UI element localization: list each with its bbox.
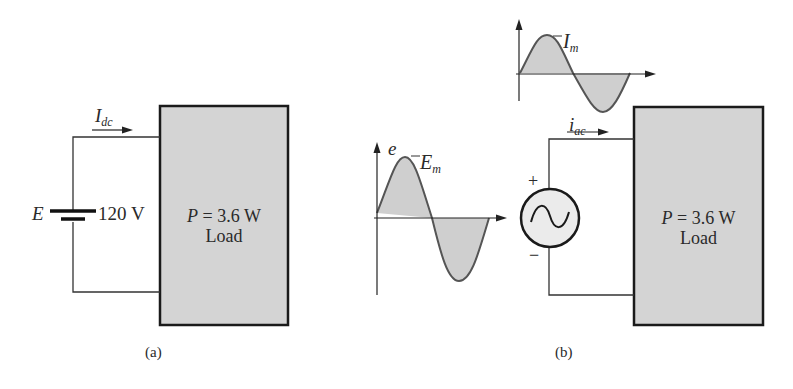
idc-label: Idc — [95, 106, 113, 125]
em-label: Em — [420, 152, 441, 172]
e-axis-label: e — [388, 139, 396, 158]
ac-load-power: P = 3.6 W — [634, 209, 763, 227]
ac-top-wire — [549, 139, 634, 190]
im-y-arrow — [516, 19, 523, 30]
iac-label: iac — [569, 115, 586, 134]
minus-sign: − — [529, 246, 539, 264]
source-voltage-value: 120 V — [98, 204, 145, 223]
em-y-arrow — [374, 142, 381, 153]
plus-sign: + — [528, 172, 538, 190]
caption-a: (a) — [145, 345, 162, 360]
iac-arrow-head — [598, 129, 609, 136]
dc-load-label: Load — [160, 227, 288, 245]
im-label: Im — [563, 31, 578, 51]
ac-load-label: Load — [634, 229, 763, 247]
em-x-arrow — [496, 215, 507, 222]
ac-bottom-wire — [549, 246, 634, 295]
dc-load-power: P = 3.6 W — [160, 207, 288, 225]
im-x-arrow — [645, 71, 656, 78]
dc-top-wire — [73, 137, 160, 210]
dc-bottom-wire — [73, 222, 160, 292]
circuit-diagram — [0, 0, 793, 389]
source-e-label: E — [32, 204, 44, 223]
idc-arrow-head — [122, 127, 133, 134]
caption-b: (b) — [555, 345, 573, 360]
current-waveform — [516, 19, 657, 112]
